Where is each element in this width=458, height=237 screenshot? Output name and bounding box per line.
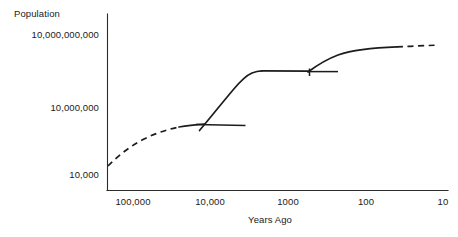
x-tick-label-1000: 1000 xyxy=(277,197,299,207)
curve-future-projection xyxy=(397,45,436,47)
x-tick-label-10000: 10,000 xyxy=(195,197,225,207)
curve-industrial-revolution-rise xyxy=(308,47,397,72)
population-chart: Population 10,000,000,000 10,000,000 10,… xyxy=(0,0,458,237)
x-tick-label-10: 10 xyxy=(438,197,449,207)
x-tick-label-100000: 100,000 xyxy=(115,197,150,207)
y-axis-title: Population xyxy=(14,9,60,19)
x-tick-label-100: 100 xyxy=(358,197,374,207)
y-tick-label-10000000000: 10,000,000,000 xyxy=(2,30,99,40)
y-tick-label-10000000: 10,000,000 xyxy=(2,103,99,113)
curve-agricultural-revolution-rise xyxy=(200,71,263,131)
curve-hunter-gatherer-era xyxy=(108,127,179,166)
x-axis-title: Years Ago xyxy=(248,215,292,225)
y-tick-label-10000: 10,000 xyxy=(2,170,99,180)
